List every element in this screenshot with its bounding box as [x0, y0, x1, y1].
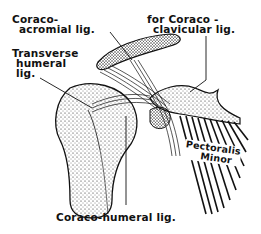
label-coraco-acromial: Coraco- acromial lig. — [12, 14, 95, 34]
label-coraco-clavicular: for Coraco - clavicular lig. — [147, 14, 235, 34]
humerus — [56, 84, 137, 218]
acromion — [97, 34, 181, 70]
label-transverse-humeral: Transverse humeral lig. — [12, 48, 79, 78]
label-coraco-humeral: Coraco-humeral lig. — [56, 212, 176, 222]
shoulder-ligaments-illustration — [0, 0, 261, 234]
